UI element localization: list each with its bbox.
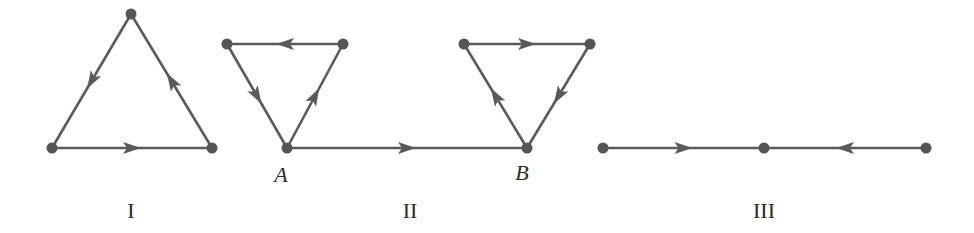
node-L-tl <box>222 39 233 50</box>
graph-I: I <box>47 9 218 224</box>
edge-bottom-left-to-bottom-right <box>52 142 212 154</box>
node-bottom-left <box>47 143 58 154</box>
node-R-tl <box>459 39 470 50</box>
vertex-label-B: B <box>515 160 528 185</box>
graph-label-II: II <box>403 198 418 223</box>
node-B <box>522 143 533 154</box>
arrowhead-icon <box>305 85 324 107</box>
edge-left-to-mid <box>603 142 764 154</box>
node-top <box>126 9 137 20</box>
arrowhead-icon <box>247 85 266 107</box>
node-bottom-right <box>207 143 218 154</box>
node-R-tr <box>585 39 596 50</box>
node-right <box>921 143 932 154</box>
arrowhead-icon <box>486 85 506 107</box>
edge-R-tl-to-R-tr <box>464 38 590 50</box>
node-L-tr <box>338 39 349 50</box>
node-left <box>598 143 609 154</box>
directed-graphs-diagram: I ABII III <box>0 0 974 233</box>
node-mid <box>759 143 770 154</box>
node-A <box>282 143 293 154</box>
edge-B-to-R-tl <box>464 44 527 148</box>
arrowhead-icon <box>549 85 569 107</box>
arrowhead-icon <box>82 70 101 92</box>
edge-A-to-B <box>287 142 527 154</box>
graph-II: ABII <box>222 38 596 223</box>
edge-L-tr-to-L-tl <box>227 38 343 50</box>
edge-A-to-L-tr <box>287 44 343 148</box>
vertex-label-A: A <box>272 162 288 187</box>
graph-label-III: III <box>753 198 775 223</box>
edge-bottom-right-to-top <box>131 14 212 148</box>
edge-right-to-mid <box>764 142 926 154</box>
graph-label-I: I <box>127 198 134 223</box>
edge-top-to-bottom-left <box>52 14 131 148</box>
edge-R-tr-to-B <box>527 44 590 148</box>
edge-L-tl-to-A <box>227 44 287 148</box>
graph-III: III <box>598 142 932 223</box>
arrowhead-icon <box>162 70 182 92</box>
